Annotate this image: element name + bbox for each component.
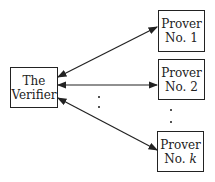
ellipsis-dot-right-2 — [170, 121, 172, 123]
prover-1-box: Prover No. 1 — [158, 10, 205, 52]
prover-k-label-line1: Prover — [160, 138, 201, 152]
prover-k-label-line2: No. k — [164, 152, 196, 166]
verifier-label-line2: Verifier — [11, 88, 56, 102]
ellipsis-dot-middle-1 — [98, 96, 100, 98]
prover-2-label-line1: Prover — [161, 66, 202, 80]
prover-2-label-line2: No. 2 — [165, 80, 198, 94]
arrow-verifier-prover-k — [58, 98, 157, 150]
prover-2-box: Prover No. 2 — [158, 59, 205, 100]
ellipsis-dot-right-1 — [170, 109, 172, 111]
verifier-box: The Verifier — [10, 67, 58, 108]
prover-1-label-line2: No. 1 — [165, 31, 198, 45]
prover-1-label-line1: Prover — [161, 17, 202, 31]
arrow-verifier-prover-1 — [58, 27, 157, 77]
prover-k-box: Prover No. k — [157, 131, 204, 172]
ellipsis-dot-middle-2 — [98, 106, 100, 108]
verifier-label-line1: The — [23, 74, 46, 88]
